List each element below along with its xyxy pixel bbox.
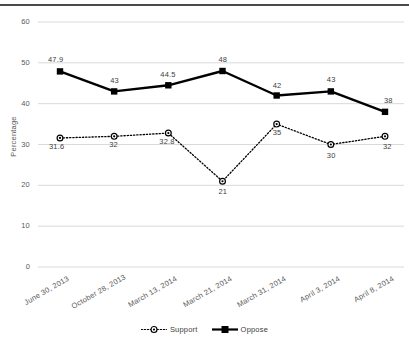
oppose-marker [273,92,279,98]
series-support-markers [57,121,388,184]
legend-item-support[interactable]: Support [141,325,198,334]
oppose-data-label: 43 [327,75,336,84]
line-chart: 6050403020100 Percentage June 30, 2013Oc… [0,0,409,346]
support-marker-center [59,137,61,139]
y-tick-label: 60 [8,17,30,26]
oppose-data-label: 48 [219,55,228,64]
oppose-marker [328,88,334,94]
support-marker-center [113,135,115,137]
series-oppose-line [60,71,385,112]
support-data-label: 32 [383,142,392,151]
legend-swatch-support [141,325,167,334]
y-tick-label: 0 [8,262,30,271]
support-data-label: 31.6 [49,142,64,151]
oppose-data-label: 43 [110,76,119,85]
series-oppose-markers [57,68,388,115]
y-tick-label: 10 [8,221,30,230]
legend-swatch-oppose [212,325,238,334]
y-tick-label: 20 [8,180,30,189]
support-marker-center [330,143,332,145]
support-marker-center [221,180,223,182]
oppose-marker [111,88,117,94]
support-marker-center [276,123,278,125]
oppose-marker [165,82,171,88]
oppose-data-label: 38 [384,96,393,105]
support-data-label: 32.8 [159,137,174,146]
legend-item-oppose[interactable]: Oppose [212,325,268,334]
support-data-label: 35 [273,128,282,137]
oppose-data-label: 44.5 [160,70,175,79]
legend-label-support: Support [170,325,198,334]
oppose-marker [219,68,225,74]
oppose-marker [57,68,63,74]
support-marker-center [167,132,169,134]
support-data-label: 21 [219,187,228,196]
oppose-data-label: 47.9 [48,55,63,64]
chart-legend: Support Oppose [0,325,409,334]
legend-label-oppose: Oppose [241,325,268,334]
support-data-label: 30 [327,151,336,160]
support-polyline [60,124,385,181]
y-tick-label: 50 [8,58,30,67]
support-data-label: 32 [109,140,118,149]
oppose-data-label: 42 [273,81,282,90]
series-support-line [60,124,385,181]
oppose-marker [382,109,388,115]
support-marker-center [384,135,386,137]
oppose-polyline [60,71,385,112]
y-axis-title: Percentage [9,102,18,172]
